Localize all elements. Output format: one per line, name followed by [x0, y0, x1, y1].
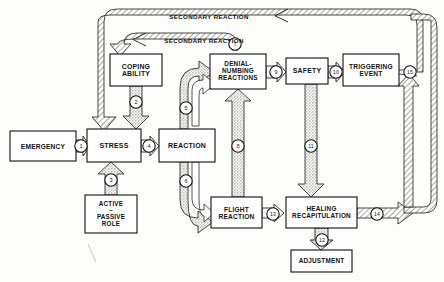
number-circle-1 [75, 140, 87, 152]
number-circle-14 [371, 208, 383, 220]
number-circle-6 [180, 175, 192, 187]
number-circle-9 [270, 66, 282, 78]
stray-mark [88, 244, 96, 262]
number-circle-5 [180, 102, 192, 114]
number-circle-15 [404, 66, 416, 78]
number-circle-11 [305, 140, 317, 152]
number-circle-8 [232, 140, 244, 152]
node-box-coping [110, 54, 162, 86]
node-box-reaction [159, 129, 215, 162]
number-circle-2 [130, 96, 142, 108]
node-box-adjustment [291, 250, 352, 272]
number-circle-7 [229, 38, 241, 50]
flow-secondary-reaction-inner [110, 33, 238, 56]
number-circle-12 [316, 234, 328, 246]
node-box-stress [87, 129, 141, 162]
node-box-denial [210, 54, 266, 89]
flow-healing-to-trigger-loop [357, 14, 437, 224]
number-circle-13 [267, 208, 279, 220]
node-box-trigger [343, 54, 399, 86]
diagram-svg [0, 0, 444, 282]
flow-reaction-to-flight [180, 162, 214, 233]
node-box-flight [211, 197, 262, 228]
node-box-healing [286, 197, 357, 228]
number-circle-10 [330, 66, 342, 78]
node-box-activepass [85, 195, 137, 233]
number-circle-4 [143, 140, 155, 152]
node-box-emergency [10, 131, 76, 161]
node-box-safety [286, 58, 328, 84]
diagram-canvas: EMERGENCY STRESS REACTION COPING ABILITY… [0, 0, 444, 282]
number-circle-3 [105, 174, 117, 186]
